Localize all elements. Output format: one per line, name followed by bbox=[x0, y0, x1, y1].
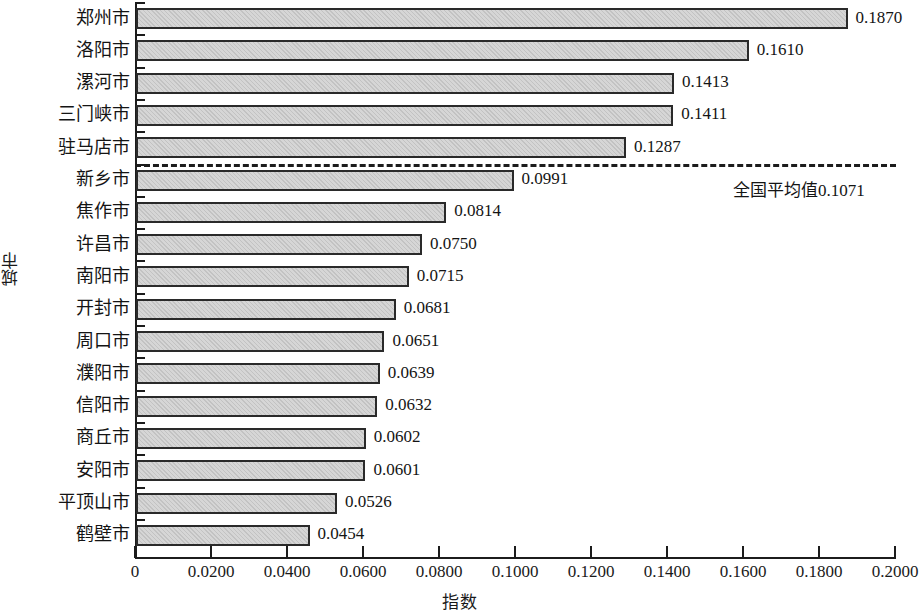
bar bbox=[136, 40, 749, 61]
bar bbox=[136, 137, 626, 158]
bar-value-label: 0.0814 bbox=[454, 201, 501, 221]
category-label: 平顶山市 bbox=[0, 492, 130, 512]
category-label: 郑州市 bbox=[0, 8, 130, 28]
bar-value-label: 0.0991 bbox=[522, 169, 569, 189]
y-axis-tick bbox=[136, 99, 145, 101]
category-label: 许昌市 bbox=[0, 234, 130, 254]
bar bbox=[136, 73, 674, 94]
x-axis-tick bbox=[438, 546, 440, 558]
bar bbox=[136, 493, 337, 514]
bar-value-label: 0.0632 bbox=[385, 395, 432, 415]
x-axis-tick bbox=[590, 546, 592, 558]
category-label: 驻马店市 bbox=[0, 137, 130, 157]
x-axis-tick bbox=[742, 546, 744, 558]
x-axis-tick bbox=[210, 546, 212, 558]
bar bbox=[136, 234, 422, 255]
x-axis-tick bbox=[134, 546, 136, 558]
bar bbox=[136, 202, 446, 223]
category-label: 信阳市 bbox=[0, 395, 130, 415]
bar-value-label: 0.0526 bbox=[345, 492, 392, 512]
x-axis-tick bbox=[894, 546, 896, 558]
bar-value-label: 0.0651 bbox=[392, 331, 439, 351]
category-label: 焦作市 bbox=[0, 201, 130, 221]
bar bbox=[136, 299, 396, 320]
category-label: 周口市 bbox=[0, 331, 130, 351]
x-axis-tick bbox=[286, 546, 288, 558]
bar-value-label: 0.0750 bbox=[430, 234, 477, 254]
bar-value-label: 0.1411 bbox=[681, 104, 727, 124]
y-axis-tick bbox=[136, 519, 145, 521]
y-axis-tick bbox=[136, 422, 145, 424]
bar bbox=[136, 105, 673, 126]
x-axis-title: 指数 bbox=[0, 588, 920, 613]
bar bbox=[136, 428, 366, 449]
bar bbox=[136, 170, 514, 191]
bar bbox=[136, 8, 848, 29]
bar-value-label: 0.0715 bbox=[417, 266, 464, 286]
y-axis-tick bbox=[136, 487, 145, 489]
bar-value-label: 0.0602 bbox=[374, 427, 421, 447]
bar bbox=[136, 396, 377, 417]
category-label: 南阳市 bbox=[0, 266, 130, 286]
category-label: 三门峡市 bbox=[0, 104, 130, 124]
average-reference-label: 全国平均值0.1071 bbox=[733, 176, 865, 201]
bar-value-label: 0.1413 bbox=[682, 72, 729, 92]
x-axis-tick bbox=[666, 546, 668, 558]
average-reference-line bbox=[135, 164, 896, 167]
category-label: 新乡市 bbox=[0, 169, 130, 189]
bar-value-label: 0.1870 bbox=[856, 8, 903, 28]
x-axis-tick-label: 0.2000 bbox=[840, 562, 920, 582]
bar-value-label: 0.0681 bbox=[404, 298, 451, 318]
bar-value-label: 0.0454 bbox=[318, 524, 365, 544]
y-axis-tick bbox=[136, 390, 145, 392]
category-label: 开封市 bbox=[0, 298, 130, 318]
y-axis-tick bbox=[136, 325, 145, 327]
y-axis-tick bbox=[136, 131, 145, 133]
bar-chart: 城市 郑州市洛阳市漯河市三门峡市驻马店市新乡市焦作市许昌市南阳市开封市周口市濮阳… bbox=[0, 0, 920, 613]
bar bbox=[136, 460, 365, 481]
y-axis-tick bbox=[136, 67, 145, 69]
bar-value-label: 0.0639 bbox=[388, 363, 435, 383]
x-axis-tick bbox=[362, 546, 364, 558]
bar bbox=[136, 266, 409, 287]
y-axis-tick bbox=[136, 260, 145, 262]
bar bbox=[136, 525, 310, 546]
bar-value-label: 0.1287 bbox=[634, 137, 681, 157]
y-axis-tick bbox=[136, 34, 145, 36]
category-label: 濮阳市 bbox=[0, 363, 130, 383]
category-label: 安阳市 bbox=[0, 460, 130, 480]
bar bbox=[136, 363, 380, 384]
category-label: 洛阳市 bbox=[0, 40, 130, 60]
y-axis-tick bbox=[136, 196, 145, 198]
bar-value-label: 0.0601 bbox=[373, 460, 420, 480]
category-label: 漯河市 bbox=[0, 72, 130, 92]
y-axis-tick bbox=[136, 293, 145, 295]
x-axis-tick bbox=[514, 546, 516, 558]
bar-value-label: 0.1610 bbox=[757, 40, 804, 60]
y-axis-tick bbox=[136, 357, 145, 359]
y-axis-tick bbox=[136, 454, 145, 456]
x-axis-tick bbox=[818, 546, 820, 558]
category-label: 鹤壁市 bbox=[0, 524, 130, 544]
bar bbox=[136, 331, 384, 352]
y-axis-tick bbox=[136, 228, 145, 230]
y-axis-tick bbox=[136, 2, 145, 4]
category-label: 商丘市 bbox=[0, 427, 130, 447]
